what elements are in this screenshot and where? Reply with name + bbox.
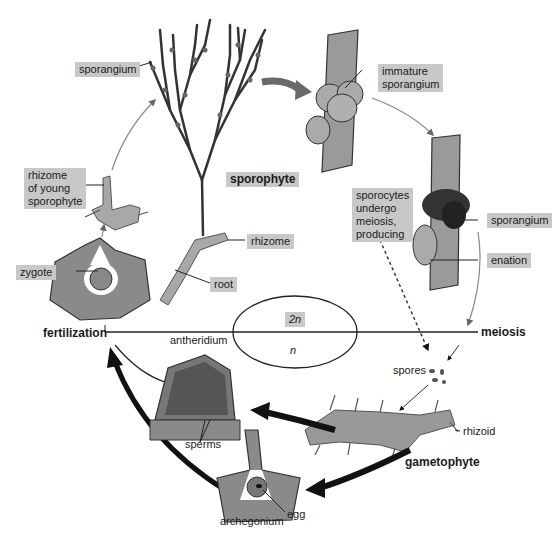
rhizome-shape bbox=[160, 233, 228, 305]
label-enation: enation bbox=[487, 253, 531, 268]
young-sporophyte-art bbox=[85, 176, 148, 230]
label-n: n bbox=[290, 344, 296, 357]
mature-sporangium-art bbox=[413, 135, 470, 290]
zygote-art bbox=[50, 238, 150, 320]
label-spores: spores bbox=[393, 364, 426, 377]
label-sporophyte: sporophyte bbox=[226, 172, 299, 187]
label-meiosis: meiosis bbox=[481, 326, 526, 339]
label-zygote: zygote bbox=[16, 265, 56, 280]
label-fertilization: fertilization bbox=[43, 327, 107, 340]
label-egg: egg bbox=[287, 508, 305, 521]
label-archegonium: archegonium bbox=[220, 515, 284, 528]
label-root: root bbox=[210, 277, 237, 292]
immature-sporangium-art bbox=[306, 30, 363, 172]
spores-art bbox=[429, 369, 446, 384]
label-sperms: sperms bbox=[185, 438, 221, 451]
label-rhizome-young-sporophyte: rhizome of young sporophyte bbox=[24, 168, 86, 209]
label-rhizoid: rhizoid bbox=[463, 425, 495, 438]
label-sporangium-top: sporangium bbox=[75, 62, 140, 77]
label-sporocytes: sporocytes undergo meiosis, producing bbox=[352, 188, 413, 242]
sporophyte-plant bbox=[150, 20, 265, 235]
label-immature-sporangium: immature sporangium bbox=[378, 64, 443, 92]
antheridium-art bbox=[150, 355, 240, 440]
label-antheridium: antheridium bbox=[170, 334, 227, 347]
label-gametophyte: gametophyte bbox=[405, 456, 480, 469]
label-rhizome: rhizome bbox=[247, 234, 294, 249]
label-sporangium-right: sporangium bbox=[487, 213, 552, 228]
label-2n: 2n bbox=[285, 312, 305, 327]
